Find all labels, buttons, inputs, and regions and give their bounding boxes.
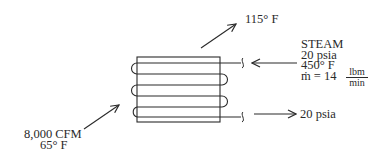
air-outlet-arrow-icon <box>201 24 236 48</box>
air-outlet-temperature: 115° F <box>245 14 278 24</box>
steam-mass-flow: ṁ = 14 <box>301 71 337 81</box>
air-inlet-arrow-icon <box>84 105 119 129</box>
coil-housing <box>137 57 220 122</box>
coil-tubes <box>132 63 242 117</box>
flow-arrows <box>84 24 297 129</box>
steam-outlet-pressure: 20 psia <box>300 109 336 119</box>
air-inlet-temperature: 65° F <box>40 140 68 150</box>
mass-flow-unit-denominator: min <box>346 78 368 88</box>
pipe-break-symbols <box>242 58 243 122</box>
outlet-break-icon <box>242 112 243 122</box>
steam-mass-flow-unit: lbm min <box>346 67 368 88</box>
inlet-break-icon <box>242 58 243 68</box>
